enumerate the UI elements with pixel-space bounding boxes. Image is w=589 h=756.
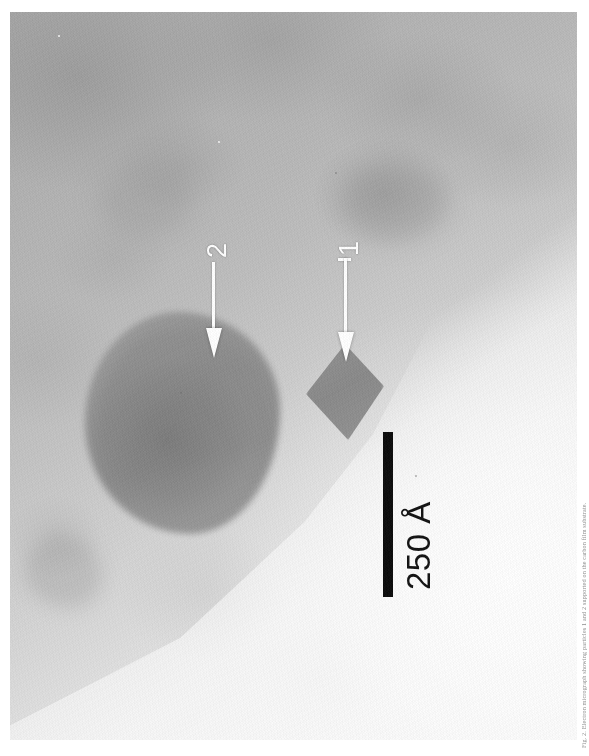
dust-speck <box>180 392 182 394</box>
dust-speck <box>335 172 337 174</box>
dust-speck <box>218 141 220 143</box>
figure-root: 2 1 250 Å Fig. 2. Electron micrograph sh… <box>0 0 589 756</box>
arrow-shaft <box>344 258 347 336</box>
particle-label-1: 1 <box>336 241 363 256</box>
dust-speck <box>58 35 60 37</box>
tem-micrograph-image: 2 1 250 Å <box>10 12 577 740</box>
particle-label-2: 2 <box>204 243 231 258</box>
arrow-shaft <box>212 262 215 332</box>
scale-bar <box>383 432 393 597</box>
background-blob-upper-right <box>340 160 450 242</box>
figure-caption: Fig. 2. Electron micrograph showing part… <box>581 503 587 748</box>
scale-bar-label: 250 Å <box>402 501 435 590</box>
dust-speck <box>415 475 417 477</box>
arrow-head-icon <box>206 328 222 358</box>
arrow-head-icon <box>338 332 354 362</box>
background-blob-upper-left <box>98 162 194 238</box>
